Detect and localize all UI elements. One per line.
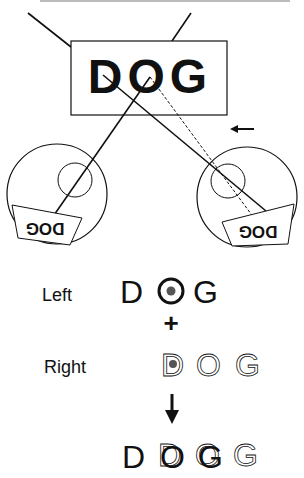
fused-letter-g: G	[198, 439, 223, 475]
plus-symbol: +	[163, 308, 178, 338]
right-letter-o: O	[196, 347, 221, 383]
left-letter-d: D	[120, 274, 143, 310]
left-letter-g: G	[193, 274, 218, 310]
left-label: Left	[42, 285, 72, 305]
right-lens	[211, 164, 245, 198]
right-fovea-dot	[169, 360, 177, 368]
left-retina-image: DOG	[26, 219, 65, 238]
left-sight-line	[28, 13, 71, 47]
fused-ghost-g: G	[233, 437, 258, 473]
left-arrow-icon	[230, 125, 238, 133]
right-retina-image: DOG	[239, 222, 278, 241]
down-arrow-icon	[165, 410, 179, 424]
left-lens	[58, 163, 92, 197]
binocular-diagram: DOG DOG DOG Left D G + Right D O G D D O…	[0, 0, 304, 478]
fused-letter-d: D	[122, 439, 145, 475]
left-fovea-dot	[167, 287, 176, 296]
right-letter-g: G	[235, 347, 260, 383]
stimulus-word: DOG	[88, 50, 212, 103]
right-label: Right	[44, 357, 86, 377]
right-sight-line	[172, 13, 191, 41]
fused-letter-o: O	[160, 439, 185, 475]
